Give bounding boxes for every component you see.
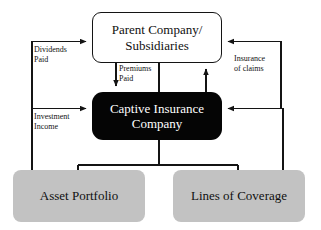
node-captive-insurance-company[interactable]: Captive Insurance Company — [92, 92, 222, 140]
edge-label-insurance-of-claims: Insurance of claims — [234, 54, 265, 74]
node-asset-portfolio-label: Asset Portfolio — [40, 188, 118, 203]
edge-coverage-to-captive — [228, 109, 283, 171]
node-captive-insurance-company-label: Captive Insurance Company — [110, 101, 204, 132]
edge-insurance-of-claims — [228, 42, 281, 109]
node-parent-company[interactable]: Parent Company/ Subsidiaries — [92, 12, 222, 63]
node-asset-portfolio[interactable]: Asset Portfolio — [13, 170, 145, 222]
node-lines-of-coverage-label: Lines of Coverage — [191, 188, 287, 203]
node-parent-company-label: Parent Company/ Subsidiaries — [112, 22, 203, 53]
edge-label-premiums-paid: Premiums Paid — [119, 64, 151, 84]
node-lines-of-coverage[interactable]: Lines of Coverage — [173, 170, 305, 222]
edge-label-investment-income: Investment Income — [34, 112, 70, 132]
edge-label-dividends-paid: Dividends Paid — [34, 45, 67, 65]
captive-insurance-diagram: Parent Company/ Subsidiaries Captive Ins… — [0, 0, 321, 230]
